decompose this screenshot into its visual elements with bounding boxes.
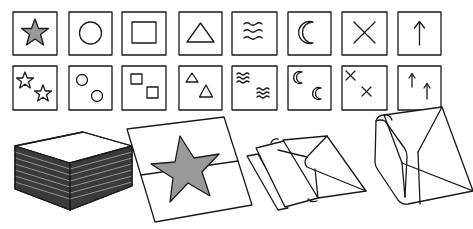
arrow-up-icon [409,74,415,88]
circle-icon [77,75,88,86]
figure: Symbol cards and folding steps [0,0,473,229]
card-triangle [179,12,222,55]
square-icon [147,87,158,98]
card-square [122,12,166,55]
card-two-waves [232,66,277,110]
star-icon [22,19,49,45]
folded-sheet [247,136,366,210]
card-arrow [398,12,441,55]
circle-icon [92,91,103,102]
crescent-moon-icon [313,88,321,100]
card-star-filled [13,12,57,55]
square-icon [132,22,156,43]
waves-icon [244,23,262,40]
waves-icon [237,73,249,83]
card-cross [342,12,387,55]
square-icon [131,74,142,84]
card-two-squares [122,66,166,110]
cross-icon [362,87,371,96]
triangle-icon [186,73,198,82]
arrow-up-icon [424,84,430,100]
card-two-stars [13,66,57,110]
triangle-icon [187,23,214,42]
cross-icon [354,22,375,43]
paper-stack [15,132,132,210]
star-icon [35,85,52,101]
sheet-with-star [127,117,252,222]
card-two-circles [69,66,112,110]
card-two-triangles [179,66,222,110]
arrow-up-icon [415,22,425,46]
card-waves [232,12,277,55]
card-circle [69,12,112,55]
card-two-arrows [398,66,441,110]
triangle-icon [200,85,213,97]
card-moon [288,12,331,55]
folded-box [375,107,473,204]
cross-icon [346,71,355,80]
circle-icon [80,22,102,44]
waves-icon [257,88,269,98]
card-two-moons [288,66,331,110]
crescent-moon-icon [294,72,302,84]
crescent-moon-icon [299,22,313,44]
card-two-crosses [342,66,387,110]
star-icon [17,72,34,88]
